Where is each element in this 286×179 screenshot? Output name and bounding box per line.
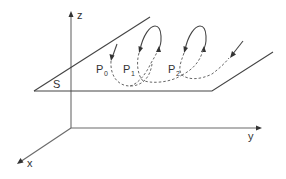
point-p0-sub: 0 xyxy=(104,70,108,77)
plane-label: S xyxy=(53,78,60,90)
z-axis-label: z xyxy=(77,9,83,21)
point-p2-sub: 2 xyxy=(176,70,180,77)
point-p2-base: P xyxy=(168,63,175,75)
trajectory-below-3 xyxy=(180,53,229,79)
trajectory-arrowhead xyxy=(230,51,236,58)
trajectory-arrowhead xyxy=(184,46,189,53)
y-axis-label: y xyxy=(248,130,254,142)
trajectory-arrowhead xyxy=(110,54,115,61)
point-p1-base: P xyxy=(123,63,130,75)
point-label-p1: P 1 xyxy=(123,63,135,77)
trajectory-loop-1 xyxy=(140,26,161,50)
x-axis-label: x xyxy=(27,157,33,169)
trajectory-arrowhead xyxy=(139,46,144,53)
point-label-p2: P 2 xyxy=(168,63,180,77)
point-p0-base: P xyxy=(96,63,103,75)
y-axis-arrowhead xyxy=(256,126,262,131)
diagram-canvas: z y x S P 0 P 1 P 2 xyxy=(0,0,286,179)
point-label-p0: P 0 xyxy=(96,63,108,77)
trajectory-loop-2 xyxy=(185,26,206,50)
plane-s-back-edge xyxy=(34,17,150,91)
point-p1-sub: 1 xyxy=(131,70,135,77)
x-axis-arrowhead xyxy=(17,158,24,164)
trajectory-below-2b xyxy=(182,50,203,75)
z-axis-arrowhead xyxy=(69,11,74,17)
